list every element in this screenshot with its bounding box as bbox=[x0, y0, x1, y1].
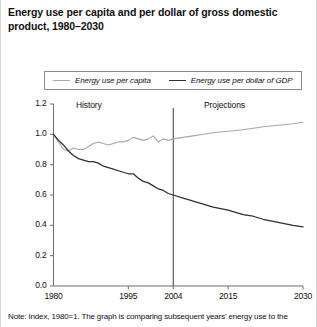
legend-item-per-capita: Energy use per capita bbox=[53, 76, 151, 85]
y-axis-tick-label: 0.8 bbox=[23, 159, 47, 169]
y-axis-tick-label: 0.2 bbox=[23, 250, 47, 260]
legend-item-per-dollar-gdp: Energy use per dollar of GDP bbox=[169, 76, 293, 85]
y-axis-tick-label: 1.0 bbox=[23, 128, 47, 138]
y-axis-tick-label: 0.6 bbox=[23, 189, 47, 199]
legend-line-swatch-per-capita bbox=[53, 80, 70, 81]
plot-area: 0.00.20.40.60.81.01.21980199520042015203… bbox=[0, 96, 317, 296]
annotation-projections: Projections bbox=[204, 100, 245, 110]
chart-legend: Energy use per capita Energy use per dol… bbox=[44, 71, 302, 90]
annotation-history: History bbox=[76, 100, 102, 110]
x-axis-tick-label: 2030 bbox=[283, 291, 317, 301]
page-title: Energy use per capita and per dollar of … bbox=[8, 6, 308, 33]
legend-label-per-dollar-gdp: Energy use per dollar of GDP bbox=[191, 76, 293, 85]
legend-label-per-capita: Energy use per capita bbox=[75, 76, 151, 85]
figure-note: Note: Index, 1980=1. The graph is compar… bbox=[8, 312, 313, 322]
y-axis-tick-label: 0.0 bbox=[23, 280, 47, 290]
figure-container: Energy use per capita and per dollar of … bbox=[0, 0, 317, 327]
chart-canvas bbox=[0, 96, 317, 296]
legend-line-swatch-per-dollar-gdp bbox=[169, 80, 186, 81]
x-axis-tick-label: 1995 bbox=[108, 291, 148, 301]
y-axis-tick-label: 1.2 bbox=[23, 98, 47, 108]
y-axis-tick-label: 0.4 bbox=[23, 219, 47, 229]
x-axis-tick-label: 2015 bbox=[208, 291, 248, 301]
x-axis-tick-label: 1980 bbox=[34, 291, 74, 301]
x-axis-tick-label: 2004 bbox=[153, 291, 193, 301]
